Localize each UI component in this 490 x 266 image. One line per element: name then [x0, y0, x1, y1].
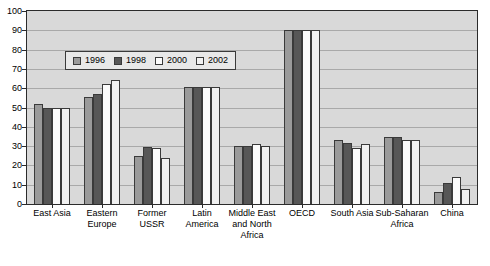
bar-group — [34, 11, 70, 204]
legend-label: 1998 — [126, 56, 146, 65]
bar-group — [184, 11, 220, 204]
bar — [243, 146, 252, 204]
bar — [434, 192, 443, 204]
bar-group — [334, 11, 370, 204]
legend-swatch-icon — [155, 57, 163, 65]
y-axis-tick-mark — [22, 204, 26, 205]
y-axis-tick-label: 40 — [0, 123, 22, 132]
bar — [84, 97, 93, 204]
bar — [152, 148, 161, 204]
bar — [134, 156, 143, 204]
bar-chart-figure: 1996199820002002 0102030405060708090100 … — [0, 0, 490, 266]
legend-entry: 2000 — [155, 56, 187, 65]
chart-legend: 1996199820002002 — [65, 51, 236, 70]
bar — [102, 84, 111, 204]
bar — [252, 144, 261, 204]
bar-group — [384, 11, 420, 204]
legend-entry: 1996 — [73, 56, 105, 65]
bar — [111, 80, 120, 204]
bar — [352, 148, 361, 204]
legend-swatch-icon — [196, 57, 204, 65]
y-axis-tick-label: 20 — [0, 161, 22, 170]
bar-group — [134, 11, 170, 204]
bar — [61, 108, 70, 205]
bar — [34, 104, 43, 204]
x-axis-labels: East AsiaEastern EuropeFormer USSRLatin … — [26, 208, 478, 264]
bar — [343, 143, 352, 204]
bar — [143, 147, 152, 204]
bar-group — [434, 11, 470, 204]
bar — [261, 146, 270, 204]
x-axis-tick-label: Eastern Europe — [75, 208, 129, 230]
legend-swatch-icon — [73, 57, 81, 65]
legend-label: 2000 — [167, 56, 187, 65]
y-axis-tick-label: 0 — [0, 200, 22, 209]
bar — [452, 177, 461, 204]
bar — [43, 108, 52, 205]
y-axis-tick-mark — [22, 69, 26, 70]
plot-area: 1996199820002002 — [26, 10, 478, 205]
bar — [311, 30, 320, 204]
bar — [302, 30, 311, 204]
bar — [193, 87, 202, 204]
bar — [293, 30, 302, 204]
y-axis-tick-label: 100 — [0, 7, 22, 16]
x-axis-tick-label: OECD — [275, 208, 329, 219]
y-axis-tick-label: 50 — [0, 104, 22, 113]
legend-label: 1996 — [85, 56, 105, 65]
bar-group — [234, 11, 270, 204]
x-axis-tick-label: China — [425, 208, 479, 219]
y-axis-tick-mark — [22, 11, 26, 12]
x-axis-tick-label: Middle East and North Africa — [225, 208, 279, 241]
bar — [184, 87, 193, 204]
bar — [384, 137, 393, 204]
bar — [361, 144, 370, 204]
bar — [443, 183, 452, 204]
x-axis-tick-label: South Asia — [325, 208, 379, 219]
y-axis-tick-mark — [22, 146, 26, 147]
y-axis-tick-label: 80 — [0, 46, 22, 55]
bar-group — [84, 11, 120, 204]
y-axis-tick-label: 70 — [0, 65, 22, 74]
y-axis-tick-mark — [22, 165, 26, 166]
bar — [202, 87, 211, 204]
x-axis-tick-label: East Asia — [25, 208, 79, 219]
y-axis-tick-label: 30 — [0, 142, 22, 151]
bar — [93, 94, 102, 204]
y-axis-tick-mark — [22, 50, 26, 51]
bar-group — [284, 11, 320, 204]
legend-label: 2002 — [208, 56, 228, 65]
legend-swatch-icon — [114, 57, 122, 65]
y-axis-tick-mark — [22, 30, 26, 31]
bar-series-container — [27, 11, 477, 204]
y-axis-tick-mark — [22, 127, 26, 128]
bar — [161, 158, 170, 204]
bar — [334, 140, 343, 204]
bar — [211, 87, 220, 204]
x-axis-tick-label: Former USSR — [125, 208, 179, 230]
y-axis-tick-mark — [22, 108, 26, 109]
bar — [52, 108, 61, 205]
bar — [461, 189, 470, 204]
bar — [411, 140, 420, 204]
bar — [393, 137, 402, 204]
legend-entry: 1998 — [114, 56, 146, 65]
legend-entry: 2002 — [196, 56, 228, 65]
y-axis-tick-mark — [22, 88, 26, 89]
x-axis-tick-label: Latin America — [175, 208, 229, 230]
bar — [402, 140, 411, 204]
y-axis-tick-label: 90 — [0, 26, 22, 35]
y-axis-tick-label: 60 — [0, 84, 22, 93]
y-axis-tick-label: 10 — [0, 181, 22, 190]
bar — [234, 146, 243, 204]
y-axis-tick-mark — [22, 185, 26, 186]
x-axis-tick-label: Sub-Saharan Africa — [375, 208, 429, 230]
bar — [284, 30, 293, 204]
